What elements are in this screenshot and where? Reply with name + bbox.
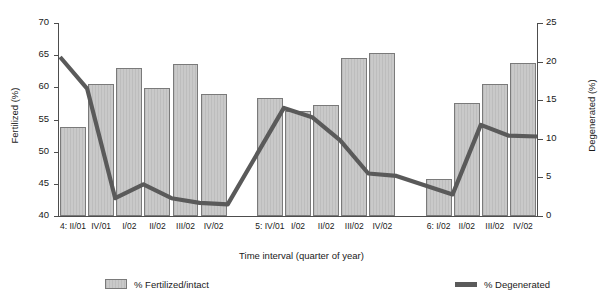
y-axis-left-tick-label: 55 — [19, 114, 49, 124]
y-axis-right-tick — [538, 216, 543, 217]
axis-spine-right — [537, 23, 538, 217]
y-axis-right-tick-label: 20 — [546, 56, 576, 66]
chart-container: Fertilized (%) Degenerated (%) Time inte… — [0, 0, 603, 308]
y-axis-left-tick-label: 50 — [19, 146, 49, 156]
y-axis-right-tick — [538, 139, 543, 140]
y-axis-left-tick — [54, 216, 59, 217]
y-axis-left-tick-label: 65 — [19, 49, 49, 59]
line-series-degenerated — [59, 23, 537, 216]
y-axis-left-tick-label: 40 — [19, 210, 49, 220]
y-axis-right-tick — [538, 23, 543, 24]
y-axis-right-tick-label: 0 — [546, 210, 576, 220]
legend-item-fertilized: % Fertilized/intact — [105, 278, 209, 290]
legend-item-degenerated: % Degenerated — [455, 278, 550, 290]
y-axis-right-tick — [538, 177, 543, 178]
y-axis-left-tick-label: 60 — [19, 81, 49, 91]
y-axis-right-tick-label: 5 — [546, 171, 576, 181]
y-axis-right-tick — [538, 100, 543, 101]
x-axis-title: Time interval (quarter of year) — [0, 250, 603, 261]
legend-label-degenerated: % Degenerated — [484, 279, 550, 290]
legend-label-fertilized: % Fertilized/intact — [134, 279, 209, 290]
legend-bar-swatch-icon — [105, 279, 127, 289]
legend-line-swatch-icon — [455, 282, 477, 287]
chart-legend: % Fertilized/intact % Degenerated — [0, 276, 603, 296]
x-axis-tick-label: IV/02 — [184, 221, 244, 231]
y-axis-right-tick-label: 15 — [546, 94, 576, 104]
x-axis-tick-label: IV/02 — [352, 221, 412, 231]
y-axis-right-tick — [538, 62, 543, 63]
y-axis-left-tick-label: 70 — [19, 17, 49, 27]
y-axis-right-title: Degenerated (%) — [586, 71, 597, 161]
x-axis-tick-label: IV/02 — [493, 221, 553, 231]
y-axis-left-tick-label: 45 — [19, 178, 49, 188]
y-axis-right-tick-label: 25 — [546, 17, 576, 27]
axis-spine-bottom — [58, 216, 538, 217]
y-axis-left-title: Fertilized (%) — [9, 71, 20, 161]
y-axis-right-tick-label: 10 — [546, 133, 576, 143]
plot-area: 40455055606570 0510152025 4: II/01IV/01I… — [59, 23, 537, 216]
